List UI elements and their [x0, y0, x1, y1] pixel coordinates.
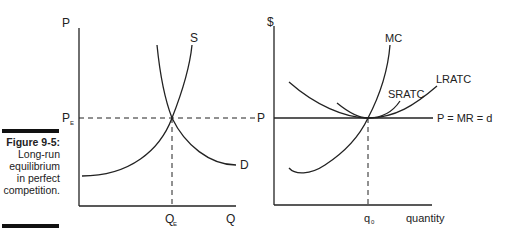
lratc-label: LRATC: [436, 73, 471, 85]
q0-sub: 0: [371, 219, 375, 225]
q0-label: q: [364, 212, 370, 224]
qe-sub: E: [173, 221, 177, 227]
diagram-canvas: P Q S D P E Q E P $ quantity MC LRATC SR…: [0, 0, 509, 237]
price-line-label: P = MR = d: [437, 112, 492, 124]
sratc-label: SRATC: [388, 88, 425, 100]
demand-label: D: [240, 158, 249, 172]
mc-curve: [289, 45, 390, 173]
pe-sub: E: [70, 120, 74, 126]
demand-curve: [157, 45, 236, 165]
mc-label: MC: [385, 32, 402, 44]
market-price-label: P: [257, 111, 265, 125]
right-y-label: $: [267, 15, 274, 29]
supply-label: S: [190, 31, 198, 45]
left-y-label: P: [62, 16, 70, 30]
firm-graph: [274, 26, 437, 205]
left-x-label: Q: [226, 212, 235, 226]
pe-label: P: [62, 111, 70, 125]
right-x-label: quantity: [406, 212, 445, 224]
supply-curve: [82, 45, 192, 176]
market-graph: [79, 28, 256, 206]
